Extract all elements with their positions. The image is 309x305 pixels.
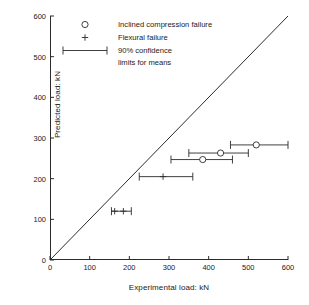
legend-entry-confidence: 90% confidence — [60, 44, 260, 57]
marker-circle — [253, 142, 259, 148]
x-tick-200: 200 — [109, 263, 149, 272]
legend-entry-inclined-compression: Inclined compression failure — [60, 18, 260, 31]
legend-label-confidence-line1: 90% confidence — [118, 44, 172, 57]
y-tick-300: 300 — [6, 134, 46, 143]
data-markers — [111, 141, 288, 215]
x-tick-400: 400 — [189, 263, 229, 272]
y-tick-500: 500 — [6, 53, 46, 62]
x-axis-label: Experimental load: kN — [50, 283, 288, 292]
y-tick-100: 100 — [6, 215, 46, 224]
marker-circle — [200, 156, 206, 162]
marker-circle — [217, 150, 223, 156]
y-tick-200: 200 — [6, 175, 46, 184]
legend-entry-flexural: Flexural failure — [60, 31, 260, 44]
legend-label-flexural: Flexural failure — [118, 31, 168, 44]
x-tick-100: 100 — [70, 263, 110, 272]
y-tick-600: 600 — [6, 12, 46, 21]
x-tick-600: 600 — [268, 263, 308, 272]
x-tick-0: 0 — [30, 263, 70, 272]
y-tick-labels: 0 100 200 300 400 500 600 — [0, 0, 46, 305]
x-tick-300: 300 — [149, 263, 189, 272]
chart-container: 0 100 200 300 400 500 600 0 100 200 300 … — [0, 0, 309, 305]
x-tick-500: 500 — [228, 263, 268, 272]
legend-label-confidence-line2: limits for means — [118, 57, 171, 69]
legend-label-inclined-compression: Inclined compression failure — [118, 18, 212, 31]
legend-entry-confidence-cont: limits for means — [60, 57, 260, 69]
y-tick-400: 400 — [6, 93, 46, 102]
chart-legend: Inclined compression failure Flexural fa… — [60, 18, 260, 69]
